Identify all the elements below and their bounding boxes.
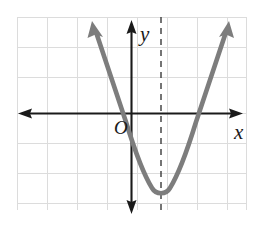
parabola-figure: y x O bbox=[0, 0, 263, 225]
x-axis-label: x bbox=[233, 120, 244, 144]
coordinate-graph: y x O bbox=[0, 0, 263, 225]
y-axis-label: y bbox=[138, 22, 150, 46]
origin-label: O bbox=[114, 117, 128, 138]
